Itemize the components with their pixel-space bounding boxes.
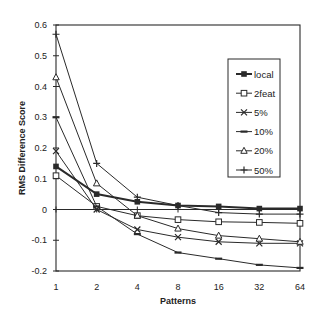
y-axis: -0.2-0.100.10.20.30.40.50.6 — [31, 20, 59, 276]
y-tick-label: 0.5 — [34, 51, 47, 61]
y-tick-label: 0.6 — [34, 20, 47, 30]
y-tick-label: 0.3 — [34, 112, 47, 122]
series-line — [56, 176, 300, 224]
x-tick-label: 8 — [175, 282, 180, 292]
line-chart: -0.2-0.100.10.20.30.40.50.6 1248163264 P… — [0, 0, 319, 318]
series-2feat — [53, 173, 303, 226]
triangle-marker-icon — [53, 74, 59, 80]
open-square-marker-icon — [53, 173, 59, 179]
y-tick-label: 0.1 — [34, 174, 47, 184]
x-tick-label: 1 — [53, 282, 58, 292]
filled-square-marker-icon — [216, 204, 222, 210]
filled-square-marker-icon — [53, 164, 59, 170]
x-tick-label: 32 — [254, 282, 264, 292]
filled-square-marker-icon — [241, 71, 247, 77]
legend-label: 50% — [254, 165, 274, 176]
triangle-marker-icon — [93, 180, 99, 186]
x-tick-label: 4 — [135, 282, 140, 292]
legend-label: 2feat — [254, 88, 275, 99]
legend-label: 10% — [254, 126, 274, 137]
y-axis-title: RMS Difference Score — [17, 101, 27, 195]
x-tick-label: 16 — [214, 282, 224, 292]
plus-marker-icon — [297, 211, 304, 218]
open-square-marker-icon — [297, 221, 303, 227]
open-square-marker-icon — [175, 217, 181, 223]
open-square-marker-icon — [216, 219, 222, 225]
x-tick-label: 64 — [295, 282, 305, 292]
legend-label: local — [254, 69, 274, 80]
plus-marker-icon — [215, 209, 222, 216]
y-tick-label: 0.4 — [34, 82, 47, 92]
plus-marker-icon — [256, 211, 263, 218]
y-tick-label: 0.2 — [34, 143, 47, 153]
y-tick-label: -0.2 — [31, 266, 47, 276]
legend-label: 20% — [254, 145, 274, 156]
y-tick-label: 0 — [42, 205, 47, 215]
open-square-marker-icon — [257, 220, 263, 226]
filled-square-marker-icon — [257, 206, 263, 212]
y-tick-label: -0.1 — [31, 235, 47, 245]
x-tick-label: 2 — [94, 282, 99, 292]
filled-square-marker-icon — [94, 191, 100, 197]
filled-square-marker-icon — [297, 206, 303, 212]
legend: local2feat5%10%20%50% — [228, 59, 280, 177]
x-axis-title: Patterns — [160, 296, 196, 306]
plus-marker-icon — [53, 31, 60, 38]
open-square-marker-icon — [241, 90, 247, 96]
legend-label: 5% — [254, 107, 268, 118]
